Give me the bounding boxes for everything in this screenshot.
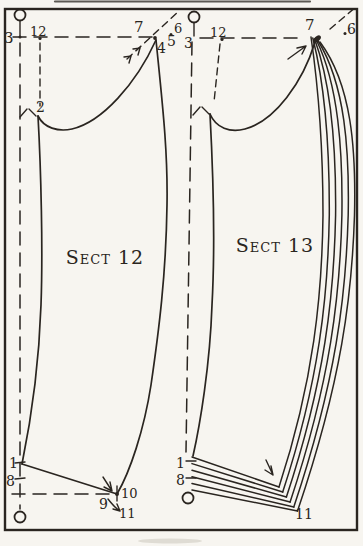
pattern-diagram: 3 12 2 7 4 5 6 1 8 9 10 11 Sect 12 [0,0,363,546]
sect12-point-8-label: 8 [6,473,15,489]
sect13-side-seam-2 [283,38,330,492]
sect12-front-edge [22,116,42,464]
sect12-point-4-label: 4 [157,40,166,56]
sect12-point-3-label: 3 [4,29,14,47]
sect13-top-punch-hole-ring [189,12,200,23]
sect12-point-10-label: 10 [121,486,138,501]
sect12-group: 3 12 2 7 4 5 6 1 8 9 10 11 Sect 12 [4,10,182,523]
sect12-point-1-label: 1 [9,455,18,471]
cut-off-caption-smudge [138,539,202,544]
sect12-title: Sect 12 [66,246,144,268]
diagram-frame [5,9,357,530]
sect12-point-9-label: 9 [99,496,108,512]
sect13-notch-mark [193,107,209,115]
sect12-point-7-label: 7 [134,18,144,36]
sect13-point-12-label: 12 [210,25,227,40]
sect13-front-edge [193,114,213,456]
sect12-bottom-edge [22,464,117,494]
sect13-point-8-label: 8 [176,472,185,488]
sect12-point-10-dot [115,492,119,496]
sect13-point-3-label: 3 [184,35,193,51]
sect13-left-construction-line [186,42,192,452]
sect12-point-2-label: 2 [36,99,45,115]
sect13-bottom-corner-arrow [265,460,273,475]
sect13-side-seam-1 [279,37,323,487]
sect12-point-8-tick [15,478,25,479]
sect13-line-12-to-notch [214,44,220,102]
sect12-point-9-arrow [103,477,112,491]
sect12-point-12-label: 12 [30,24,47,39]
sect12-notch-mark [20,109,36,117]
sect13-bottom-punch-hole-ring [183,493,194,504]
sect13-point-1-label: 1 [176,455,185,471]
sect12-point-11-label: 11 [119,506,136,521]
sect13-point-6-label: 6 [347,21,356,37]
sect12-point-6-label: 6 [174,21,182,36]
sect12-point-3-dot [19,36,22,39]
sect12-top-punch-hole-ring [15,10,26,21]
sect13-group: 3 12 7 6 1 8 11 Sect 13 [176,6,357,522]
sect12-diagonal-arrowhead-upper [133,48,140,55]
sect13-point-7-arrow [288,46,306,59]
sect13-title: Sect 13 [236,234,314,256]
sect13-point-11-label: 11 [295,506,313,522]
sect13-point-7-label: 7 [305,16,315,34]
sect13-neck-shoulder-curve [210,42,315,130]
sect12-bottom-punch-hole-ring [15,512,26,523]
sect13-side-seam-3 [286,39,335,497]
